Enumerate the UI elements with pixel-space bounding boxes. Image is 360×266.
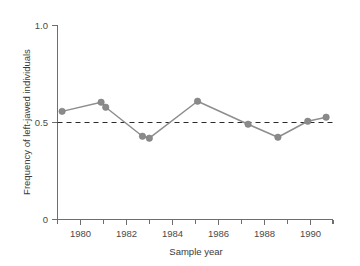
- data-point: [139, 133, 145, 139]
- y-axis-title: Frequency of left-jawed individuals: [21, 49, 32, 195]
- data-point: [275, 134, 281, 140]
- data-point: [146, 135, 152, 141]
- x-tick-label-1986: 1986: [208, 228, 229, 239]
- data-point: [245, 121, 251, 127]
- data-point: [305, 118, 311, 124]
- x-axis-title: Sample year: [169, 246, 222, 257]
- x-tick-label-1990: 1990: [300, 228, 321, 239]
- x-tick-label-1988: 1988: [254, 228, 275, 239]
- y-tick-label-0.5: 0.5: [35, 117, 48, 128]
- x-tick-label-1984: 1984: [162, 228, 183, 239]
- y-tick-label-1: 1.0: [35, 20, 48, 31]
- y-tick-label-0: 0: [43, 214, 48, 225]
- data-point: [59, 108, 65, 114]
- data-point: [103, 104, 109, 110]
- y-axis-ticks: [52, 26, 58, 220]
- x-tick-label-1980: 1980: [70, 228, 91, 239]
- x-tick-label-1982: 1982: [116, 228, 137, 239]
- chart-figure: 1.0 0.5 0 1980 1982 1984 1986 1988 1990: [0, 0, 360, 266]
- data-point: [194, 98, 200, 104]
- x-axis-minor-ticks: [58, 220, 334, 225]
- data-point: [98, 99, 104, 105]
- line-chart: 1.0 0.5 0 1980 1982 1984 1986 1988 1990: [0, 0, 360, 266]
- series-line: [62, 101, 326, 138]
- data-point: [323, 114, 329, 120]
